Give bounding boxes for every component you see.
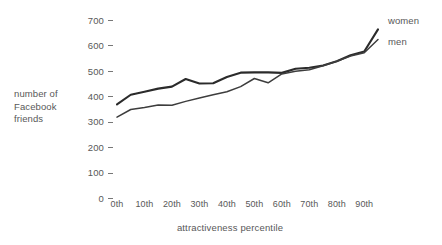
legend-item-women: women xyxy=(388,15,419,26)
facebook-friends-line-chart: number of Facebook friends 7006005004003… xyxy=(0,0,442,245)
plot-area xyxy=(0,0,442,245)
series-line-women xyxy=(117,29,378,104)
series-line-men xyxy=(117,40,378,118)
legend-item-men: men xyxy=(388,36,407,47)
